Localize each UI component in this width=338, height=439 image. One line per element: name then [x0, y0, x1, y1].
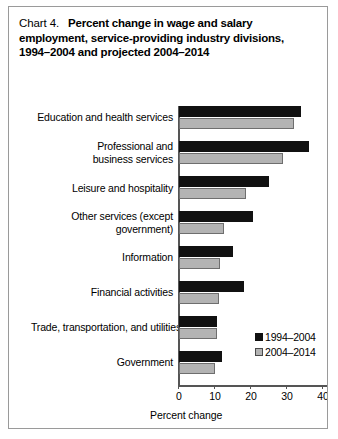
chart-title-line-1: Chart 4. Percent change in wage and sala… [19, 15, 319, 31]
x-tick-40 [322, 385, 323, 389]
legend-swatch-icon-2004-2014 [255, 348, 263, 356]
bar-professional-2004-2014 [179, 153, 283, 164]
category-label-professional-text: Professional and business services [93, 140, 173, 165]
x-axis-title: Percent change [150, 409, 222, 421]
category-label-trade: Trade, transportation, and utilities [21, 321, 181, 334]
bar-information-1994-2004 [179, 246, 233, 257]
bar-leisure-1994-2004 [179, 176, 269, 187]
bar-trade-1994-2004 [179, 316, 217, 327]
x-tick-0 [178, 385, 179, 389]
chart-legend: 1994–2004 2004–2014 [255, 329, 316, 359]
bar-education-1994-2004 [179, 106, 301, 117]
x-axis-line [178, 385, 328, 387]
x-tick-label-30: 30 [281, 390, 293, 402]
chart-frame: Chart 4. Percent change in wage and sala… [8, 6, 328, 429]
category-label-government: Government [21, 356, 173, 369]
chart-title-text-3: 1994–2004 and projected 2004–2014 [19, 45, 319, 60]
x-tick-20 [250, 385, 251, 389]
category-label-education: Education and health services [21, 111, 173, 124]
category-label-other-services-text: Other services (except government) [71, 210, 173, 235]
bar-other-services-1994-2004 [179, 211, 253, 222]
x-tick-label-40: 40 [317, 390, 328, 402]
chart-title-text-2: employment, service-providing industry d… [19, 31, 319, 46]
bar-information-2004-2014 [179, 258, 220, 269]
bar-government-2004-2014 [179, 363, 215, 374]
category-label-information: Information [21, 251, 173, 264]
x-axis-tick-labels: 0 10 20 30 40 [178, 390, 328, 404]
bar-other-services-2004-2014 [179, 223, 224, 234]
legend-swatch-icon-1994-2004 [255, 333, 263, 341]
bar-professional-1994-2004 [179, 141, 309, 152]
bar-leisure-2004-2014 [179, 188, 246, 199]
category-label-financial: Financial activities [21, 286, 173, 299]
chart-number-label: Chart 4. [19, 17, 59, 29]
legend-item-1994-2004: 1994–2004 [255, 329, 316, 344]
category-label-other-services: Other services (except government) [57, 210, 173, 235]
x-tick-label-0: 0 [176, 390, 182, 402]
x-tick-label-10: 10 [209, 390, 221, 402]
chart-title-text-1: Percent change in wage and salary [68, 17, 253, 29]
category-label-professional: Professional and business services [57, 140, 173, 165]
bar-education-2004-2014 [179, 118, 294, 129]
x-tick-label-20: 20 [245, 390, 257, 402]
category-axis-labels: Education and health services Profession… [21, 106, 173, 385]
legend-item-2004-2014: 2004–2014 [255, 344, 316, 359]
bar-financial-2004-2014 [179, 293, 219, 304]
legend-label-1994-2004: 1994–2004 [265, 331, 316, 343]
category-label-leisure: Leisure and hospitality [21, 182, 173, 195]
bar-trade-2004-2014 [179, 328, 217, 339]
bar-financial-1994-2004 [179, 281, 244, 292]
x-tick-10 [214, 385, 215, 389]
legend-label-2004-2014: 2004–2014 [265, 346, 316, 358]
chart-title: Chart 4. Percent change in wage and sala… [19, 15, 319, 60]
x-tick-30 [286, 385, 287, 389]
bar-government-1994-2004 [179, 351, 222, 362]
